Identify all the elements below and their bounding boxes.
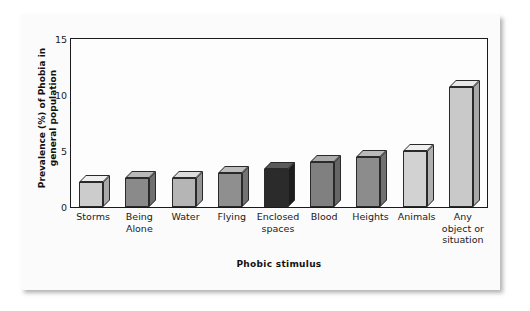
- bar-slot: [71, 39, 117, 207]
- x-axis-tick-label: Water: [162, 211, 208, 223]
- x-axis-tick-label: Storms: [70, 211, 116, 223]
- bar-front-face: [172, 178, 196, 207]
- x-axis-tick-label-line: Enclosed: [255, 211, 301, 223]
- bar-front-face: [79, 182, 103, 207]
- bar-slot: [302, 39, 348, 207]
- bar[interactable]: [125, 178, 149, 207]
- x-axis-tick-label-line: Storms: [70, 211, 116, 223]
- bar-slot: [441, 39, 487, 207]
- bar[interactable]: [403, 151, 427, 207]
- figure-card: Prevalence (%) of Phobia in general popu…: [21, 15, 500, 290]
- x-axis-tick-labels: StormsBeingAloneWaterFlyingEnclosedspace…: [70, 211, 488, 261]
- bar-front-face: [125, 178, 149, 207]
- x-axis-tick-label-line: object or: [440, 223, 486, 235]
- bar-front-face: [449, 87, 473, 207]
- x-axis-tick-label-line: Flying: [209, 211, 255, 223]
- y-axis-tick-10: 10: [55, 90, 67, 101]
- x-axis-tick-label: Anyobject orsituation: [440, 211, 486, 246]
- bar[interactable]: [356, 157, 380, 207]
- bar-chart-figure: Prevalence (%) of Phobia in general popu…: [21, 15, 500, 290]
- y-axis-tick-5: 5: [61, 146, 67, 157]
- bars-group: [71, 39, 487, 207]
- y-axis-tick-0: 0: [61, 202, 67, 213]
- x-axis-tick-label-line: Any: [440, 211, 486, 223]
- bar[interactable]: [79, 182, 103, 207]
- bar-side-face: [473, 80, 480, 207]
- x-axis-tick-label: Enclosedspaces: [255, 211, 301, 234]
- x-axis-tick-label-line: Heights: [347, 211, 393, 223]
- x-axis-tick-label: Blood: [301, 211, 347, 223]
- x-axis-tick-label-line: Alone: [116, 223, 162, 235]
- x-axis-tick-label-line: Animals: [394, 211, 440, 223]
- page-background: Prevalence (%) of Phobia in general popu…: [0, 0, 530, 311]
- x-axis-tick-label: Flying: [209, 211, 255, 223]
- bar-side-face: [427, 144, 434, 207]
- bar[interactable]: [172, 178, 196, 207]
- bar-side-face: [288, 162, 295, 207]
- bar-front-face: [218, 173, 242, 207]
- bar[interactable]: [449, 87, 473, 207]
- x-axis-tick-label-line: situation: [440, 234, 486, 246]
- bar-front-face: [310, 162, 334, 207]
- bar-side-face: [334, 155, 341, 207]
- bar-front-face: [264, 169, 288, 207]
- x-axis-title: Phobic stimulus: [70, 259, 488, 269]
- plot-area: 051015: [70, 38, 488, 208]
- y-axis-tick-15: 15: [55, 34, 67, 45]
- bar-slot: [117, 39, 163, 207]
- bar-slot: [395, 39, 441, 207]
- bar[interactable]: [218, 173, 242, 207]
- bar-front-face: [356, 157, 380, 207]
- x-axis-tick-label-line: Blood: [301, 211, 347, 223]
- bar-side-face: [380, 150, 387, 207]
- bar[interactable]: [264, 169, 288, 207]
- x-axis-tick-label-line: Water: [162, 211, 208, 223]
- bar-front-face: [403, 151, 427, 207]
- bar-slot: [210, 39, 256, 207]
- bar-slot: [348, 39, 394, 207]
- x-axis-tick-label: Heights: [347, 211, 393, 223]
- bar-slot: [256, 39, 302, 207]
- bar[interactable]: [310, 162, 334, 207]
- bar-side-face: [242, 166, 249, 207]
- x-axis-tick-label-line: Being: [116, 211, 162, 223]
- x-axis-tick-label: BeingAlone: [116, 211, 162, 234]
- x-axis-tick-label-line: spaces: [255, 223, 301, 235]
- x-axis-tick-label: Animals: [394, 211, 440, 223]
- bar-slot: [163, 39, 209, 207]
- y-axis-title: Prevalence (%) of Phobia in general popu…: [37, 28, 59, 208]
